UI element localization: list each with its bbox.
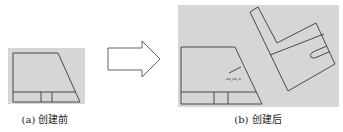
right-arrow-icon bbox=[108, 41, 160, 77]
caption-before: (a) 创建前 bbox=[22, 111, 69, 126]
panel-before bbox=[8, 48, 85, 104]
panel-before-background bbox=[8, 48, 85, 104]
panel-after: aa_aa_a bbox=[178, 5, 339, 107]
caption-after: (b) 创建后 bbox=[234, 111, 281, 126]
annotation-label: aa_aa_a bbox=[226, 77, 241, 81]
